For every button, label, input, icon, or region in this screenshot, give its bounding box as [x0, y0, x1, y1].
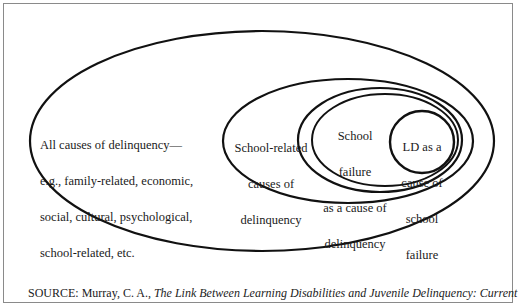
label-line: delinquency: [230, 214, 312, 226]
label-line: delinquency: [316, 238, 394, 250]
label-school-related: School-related causes of delinquency: [230, 118, 312, 238]
source-title: The Link Between Learning Disabilities a…: [154, 286, 518, 300]
source-prefix: SOURCE: Murray, C. A.,: [28, 286, 154, 300]
label-line: as a cause of: [316, 202, 394, 214]
label-line: failure: [394, 249, 450, 261]
label-line: e.g., family-related, economic,: [40, 175, 193, 187]
label-line: LD as a: [394, 141, 450, 153]
label-all-causes: All causes of delinquency— e.g., family-…: [40, 115, 193, 271]
label-line: All causes of delinquency—: [40, 139, 193, 151]
label-line: causes of: [230, 178, 312, 190]
source-citation: SOURCE: Murray, C. A., The Link Between …: [28, 287, 517, 300]
label-school-failure: School failure as a cause of delinquency: [316, 106, 394, 262]
label-line: social, cultural, psychological,: [40, 211, 193, 223]
label-line: school: [394, 213, 450, 225]
label-line: school-related, etc.: [40, 247, 193, 259]
label-line: School-related: [230, 142, 312, 154]
label-line: School: [316, 130, 394, 142]
label-ld: LD as a cause of school failure: [394, 117, 450, 273]
label-line: failure: [316, 166, 394, 178]
label-line: cause of: [394, 177, 450, 189]
